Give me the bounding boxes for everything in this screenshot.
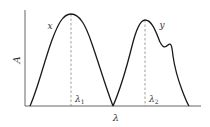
y-axis-label: A (11, 56, 22, 64)
curve-x-label: x (47, 21, 52, 31)
lambda1-label: λ1 (74, 94, 85, 105)
x-axis-label: λ (112, 112, 119, 123)
lambda2-subscript: 2 (155, 98, 159, 105)
absorption-spectrum-chart: A λ x y λ1 λ2 (0, 0, 210, 127)
curve-x (30, 14, 113, 106)
lambda2-symbol: λ (148, 94, 155, 104)
lambda1-subscript: 1 (81, 98, 85, 105)
curve-y-label: y (158, 20, 165, 30)
lambda1-symbol: λ (74, 94, 81, 104)
lambda2-label: λ2 (148, 94, 159, 105)
